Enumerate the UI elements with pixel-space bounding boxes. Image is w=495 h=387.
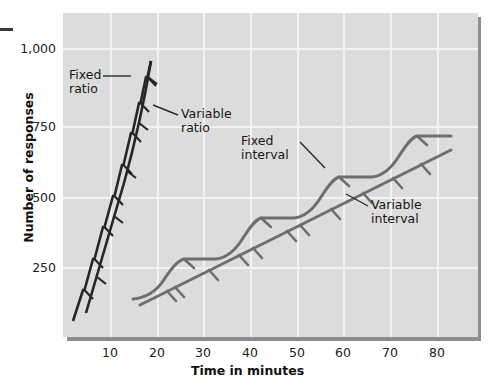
x-axis-title: Time in minutes [0,363,495,378]
hash-mark [239,255,248,265]
x-tick-label-10: 10 [92,345,128,360]
hash-mark [331,209,340,219]
hash-mark [167,291,176,301]
series-label-variable-interval: Variable interval [371,198,422,227]
leader-line-fixed-interval [300,142,325,168]
hash-mark [175,287,184,297]
hash-mark [139,123,148,130]
x-tick-label-80: 80 [419,345,455,360]
x-tick-label-50: 50 [279,345,315,360]
variable-ratio-hash-marks [97,77,157,284]
series-variable-ratio [86,61,157,313]
y-axis-title: Number of responses [21,78,36,258]
hash-mark [253,248,262,258]
x-tick-label-60: 60 [325,345,361,360]
series-variable-interval [140,150,451,305]
fixed-ratio-hash-marks [85,77,157,299]
hash-mark [209,270,218,280]
series-label-variable-ratio: Variable ratio [181,107,232,136]
variable-interval-line [140,150,451,305]
cumulative-response-chart: 1,000 750 500 250 Number of responses 10… [0,0,495,387]
y-tick-label-1000: 1,000 [0,41,56,56]
hash-mark [287,231,296,241]
hash-mark [300,225,309,235]
curve-layer [63,13,478,337]
variable-interval-hash-marks [167,164,430,301]
x-tick-label-70: 70 [372,345,408,360]
plot-area: Fixed ratio Variable ratio Fixed interva… [63,13,478,337]
x-tick-label-30: 30 [185,345,221,360]
hash-mark [421,164,430,174]
hash-mark [393,178,402,188]
leader-line-variable-ratio [153,105,178,115]
series-label-fixed-ratio: Fixed ratio [69,68,101,97]
y-tick-label-250: 250 [0,260,56,275]
x-tick-label-20: 20 [139,345,175,360]
x-tick-label-40: 40 [232,345,268,360]
hash-mark [97,277,106,284]
hash-mark [114,216,123,223]
figure-edge-dash [0,28,13,31]
fixed-ratio-line [73,61,151,321]
series-label-fixed-interval: Fixed interval [241,134,289,163]
